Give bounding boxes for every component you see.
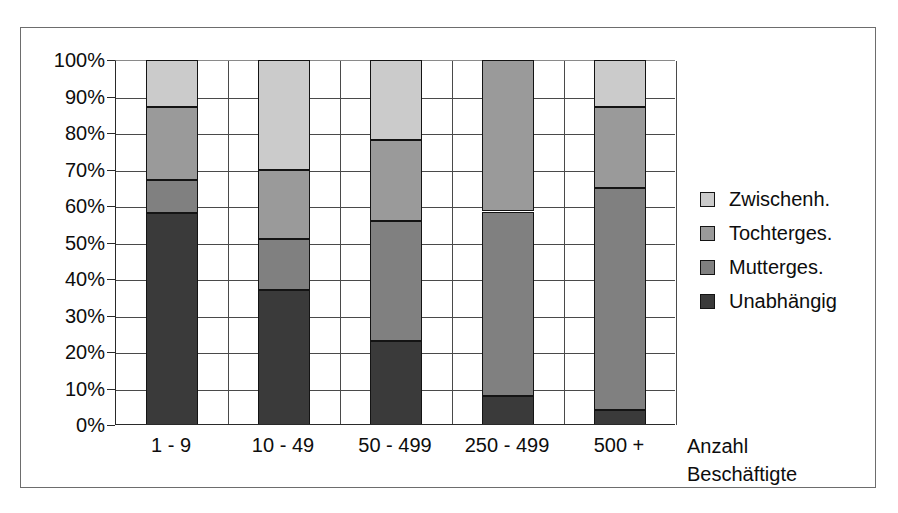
bar-segment[interactable] [258,170,310,239]
bar-segment[interactable] [594,60,646,107]
stacked-bar[interactable] [146,61,198,425]
y-axis-tick-label: 70% [29,158,105,181]
bar-segment[interactable] [258,290,310,425]
bar-segment[interactable] [258,239,310,290]
legend-swatch-icon [700,294,715,309]
legend-swatch-icon [700,192,715,207]
bar-segment[interactable] [146,213,198,425]
bar-segment[interactable] [258,60,310,170]
x-axis-tick-label: 1 - 9 [151,434,191,457]
y-axis-tick-label: 20% [29,341,105,364]
bar-segment[interactable] [370,341,422,425]
legend-item[interactable]: Unabhängig [700,284,870,318]
y-axis-tick-label: 0% [29,414,105,437]
plot-area [115,60,675,425]
legend-item[interactable]: Tochterges. [700,216,870,250]
stacked-bar[interactable] [482,61,534,425]
bar-slot [116,61,228,425]
y-axis-tick-label: 90% [29,85,105,108]
y-axis-tick-mark [107,97,115,98]
legend-item-label: Zwischenh. [729,188,830,211]
x-axis-title: Anzahl Beschäftigte [687,432,797,488]
y-axis-tick-label: 50% [29,231,105,254]
bar-slot [340,61,452,425]
legend-item-label: Unabhängig [729,290,837,313]
bar-segment[interactable] [146,60,198,107]
bar-segment[interactable] [482,396,534,425]
x-axis-tick-labels: 1 - 910 - 4950 - 499250 - 499500 + [115,434,675,462]
y-axis-tick-label: 60% [29,195,105,218]
bar-segment[interactable] [146,107,198,180]
bar-slot [564,61,676,425]
y-axis-tick-mark [107,60,115,61]
legend-swatch-icon [700,260,715,275]
y-axis-tick-mark [107,170,115,171]
y-axis-tick-mark [107,133,115,134]
x-axis-tick-label: 500 + [594,434,645,457]
y-axis-tick-label: 80% [29,122,105,145]
y-axis-tick-label: 10% [29,377,105,400]
x-axis-tick-label: 50 - 499 [358,434,431,457]
bar-segment[interactable] [370,60,422,140]
bar-segment[interactable] [482,212,534,396]
y-axis-tick-mark [107,352,115,353]
x-axis-title-line1: Anzahl [687,432,797,460]
x-axis-title-line2: Beschäftigte [687,460,797,488]
bar-segment[interactable] [370,221,422,341]
y-axis-tick-mark [107,206,115,207]
y-axis-tick-mark [107,316,115,317]
bar-segment[interactable] [594,410,646,425]
x-axis-tick-label: 10 - 49 [252,434,314,457]
y-axis-tick-mark [107,389,115,390]
stacked-bar[interactable] [370,61,422,425]
bar-segment[interactable] [482,60,534,211]
bar-segment[interactable] [146,180,198,213]
chart-legend: Zwischenh.Tochterges.Mutterges.Unabhängi… [700,182,870,318]
bar-segment[interactable] [370,140,422,220]
chart-figure: 0%10%20%30%40%50%60%70%80%90%100% 1 - 91… [0,0,898,513]
legend-item-label: Tochterges. [729,222,832,245]
y-axis-tick-label: 40% [29,268,105,291]
legend-swatch-icon [700,226,715,241]
y-axis-tick-mark [107,279,115,280]
stacked-bar[interactable] [258,61,310,425]
gridline-vertical [676,61,677,425]
bar-slot [228,61,340,425]
x-axis-tick-label: 250 - 499 [465,434,550,457]
y-axis-tick-labels: 0%10%20%30%40%50%60%70%80%90%100% [21,60,105,425]
stacked-bar[interactable] [594,61,646,425]
x-axis-line [116,424,675,425]
bar-segment[interactable] [594,188,646,411]
bar-slot [452,61,564,425]
y-axis-tick-mark [107,243,115,244]
bar-segment[interactable] [594,107,646,187]
legend-item[interactable]: Mutterges. [700,250,870,284]
y-axis-tick-label: 100% [29,49,105,72]
legend-item-label: Mutterges. [729,256,823,279]
y-axis-tick-label: 30% [29,304,105,327]
y-axis-tick-mark [107,425,115,426]
legend-item[interactable]: Zwischenh. [700,182,870,216]
